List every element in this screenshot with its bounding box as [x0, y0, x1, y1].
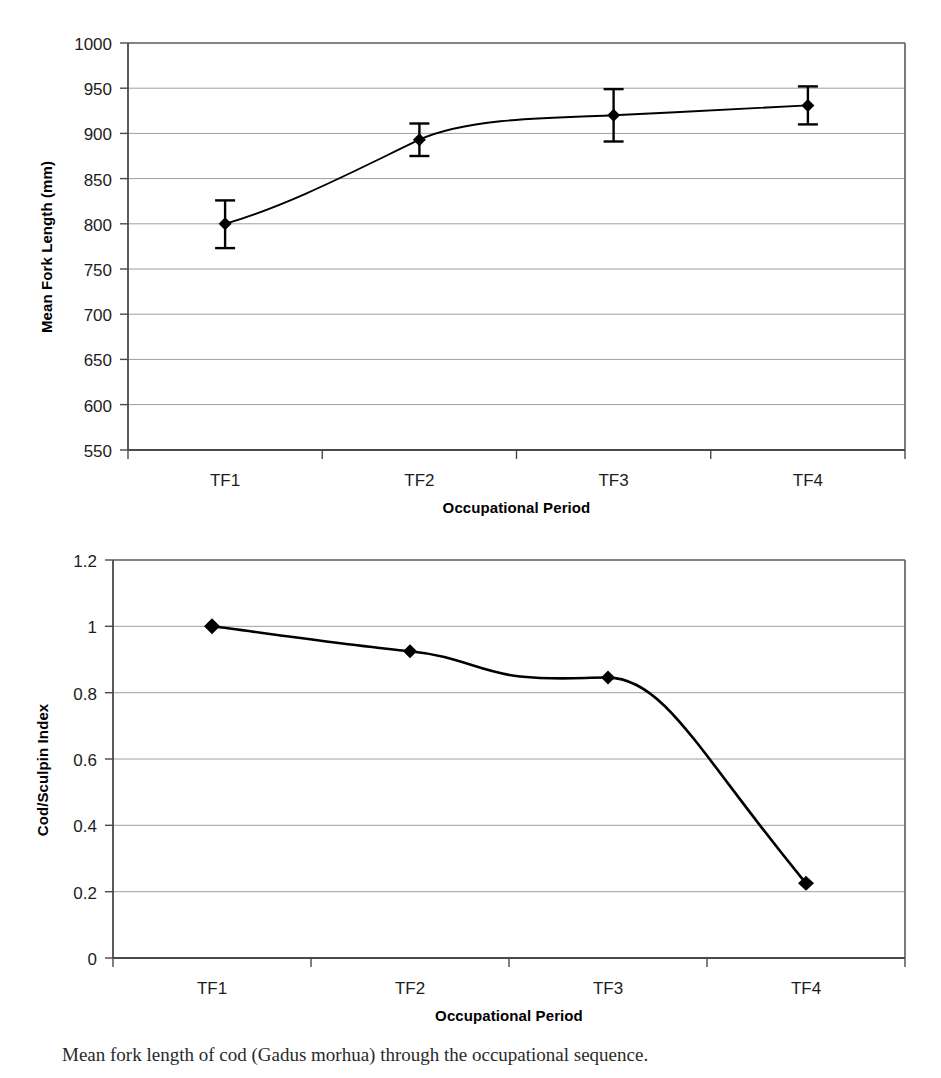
y-axis-title: Mean Fork Length (mm) [38, 161, 55, 333]
y-tick-label-0: 0 [88, 950, 97, 969]
y-tick-label-750: 750 [84, 261, 112, 280]
y-tick-labels-2: 1.2 1 0.8 0.6 0.4 0.2 0 [73, 552, 97, 969]
y-tick-label-950: 950 [84, 80, 112, 99]
chart-mean-fork-length: Mean Fork Length (mm) [0, 0, 941, 520]
x-category-label-tf1-2: TF1 [197, 979, 227, 998]
x-category-label-tf4: TF4 [793, 471, 823, 490]
plot-background [128, 43, 905, 450]
x-category-label-tf2-2: TF2 [395, 979, 425, 998]
chart-cod-sculpin-index: Cod/Sculpin Index [0, 520, 941, 1040]
x-axis-title-2: Occupational Period [435, 1007, 583, 1024]
x-category-labels-2: TF1 TF2 TF3 TF4 [197, 979, 821, 998]
y-tick-label-0-8: 0.8 [73, 685, 97, 704]
x-category-label-tf3: TF3 [598, 471, 628, 490]
plot-area [120, 43, 905, 459]
x-category-label-tf3-2: TF3 [593, 979, 623, 998]
y-tick-marks-2 [105, 560, 113, 958]
y-tick-label-850: 850 [84, 171, 112, 190]
x-category-label-tf4-2: TF4 [791, 979, 821, 998]
y-axis-title-group-2: Cod/Sculpin Index [34, 703, 51, 836]
y-tick-label-600: 600 [84, 397, 112, 416]
plot-area-2 [105, 560, 905, 967]
x-category-label-tf2: TF2 [404, 471, 434, 490]
y-tick-label-550: 550 [84, 442, 112, 461]
x-category-label-tf1: TF1 [210, 471, 240, 490]
y-tick-label-1000: 1000 [74, 35, 112, 54]
y-tick-label-0-4: 0.4 [73, 817, 97, 836]
y-tick-label-800: 800 [84, 216, 112, 235]
y-axis-title-2: Cod/Sculpin Index [34, 703, 51, 836]
y-tick-labels: 1000 950 900 850 800 750 700 650 600 550 [74, 35, 112, 461]
y-tick-label-700: 700 [84, 306, 112, 325]
y-tick-label-1: 1 [88, 618, 97, 637]
figure-caption: Mean fork length of cod (Gadus morhua) t… [62, 1046, 892, 1068]
chart-cod-sculpin-index-svg: Cod/Sculpin Index [0, 520, 941, 1040]
x-category-labels: TF1 TF2 TF3 TF4 [210, 471, 823, 490]
y-tick-label-0-2: 0.2 [73, 884, 97, 903]
y-tick-label-1-2: 1.2 [73, 552, 97, 571]
figure-container: Mean Fork Length (mm) [0, 0, 941, 1078]
x-tick-marks-2 [113, 958, 905, 967]
y-axis-title-group: Mean Fork Length (mm) [38, 161, 55, 333]
y-tick-label-900: 900 [84, 125, 112, 144]
x-axis-title: Occupational Period [443, 499, 591, 516]
chart-mean-fork-length-svg: Mean Fork Length (mm) [0, 0, 941, 520]
y-tick-label-0-6: 0.6 [73, 751, 97, 770]
figure-caption-strip: Mean fork length of cod (Gadus morhua) t… [0, 1046, 941, 1078]
y-tick-marks [120, 43, 128, 450]
y-tick-label-650: 650 [84, 351, 112, 370]
x-tick-marks [128, 450, 905, 459]
